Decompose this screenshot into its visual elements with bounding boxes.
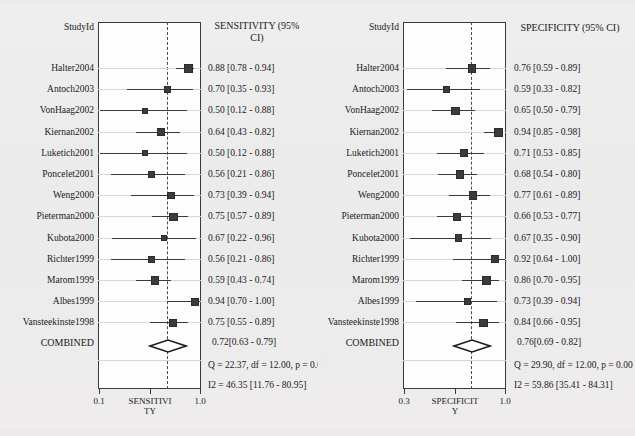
confidence-interval-text: 0.86 [0.70 - 0.95] xyxy=(514,270,581,290)
confidence-interval-text: 0.94 [0.70 - 1.00] xyxy=(208,291,275,311)
point-estimate-marker xyxy=(443,86,451,94)
panel-gutter-mask xyxy=(318,352,328,370)
specificity-q-statistic: Q = 29.90, df = 12.00, p = 0.00 xyxy=(514,360,633,370)
point-estimate-marker xyxy=(164,86,171,93)
point-estimate-marker xyxy=(453,213,462,222)
study-row: Weng20000.77 [0.61 - 0.89] xyxy=(318,185,635,205)
sensitivity-axis-tick-min xyxy=(99,389,100,394)
confidence-interval-text: 0.67 [0.35 - 0.90] xyxy=(514,228,581,248)
study-label: VonHaag2002 xyxy=(318,100,399,120)
combined-row-gridline xyxy=(403,360,506,361)
point-estimate-marker xyxy=(456,170,465,179)
point-estimate-marker xyxy=(142,150,148,156)
confidence-interval-text: 0.67 [0.22 - 0.96] xyxy=(208,228,275,248)
confidence-interval-text: 0.56 [0.21 - 0.86] xyxy=(208,164,275,184)
study-label: Weng2000 xyxy=(318,185,399,205)
point-estimate-marker xyxy=(468,64,476,72)
study-row: Marom19990.86 [0.70 - 0.95] xyxy=(318,270,635,290)
study-label: Vansteekinste1998 xyxy=(0,312,94,332)
sensitivity-axis-tick-mid xyxy=(150,389,151,394)
combined-row-gridline xyxy=(98,360,201,361)
sensitivity-axis-title: SENSITIVI TY xyxy=(115,396,185,416)
sensitivity-axis-label-max: 1.0 xyxy=(187,396,213,406)
sensitivity-axis-title-line1: SENSITIVI xyxy=(115,396,185,406)
study-label: Weng2000 xyxy=(0,185,94,205)
point-estimate-marker xyxy=(169,213,177,221)
study-row: Kiernan20020.94 [0.85 - 0.98] xyxy=(318,122,635,142)
confidence-interval-line xyxy=(416,301,497,302)
point-estimate-marker xyxy=(184,64,193,73)
confidence-interval-text: 0.56 [0.21 - 0.86] xyxy=(208,249,275,269)
confidence-interval-text: 0.70 [0.35 - 0.93] xyxy=(208,79,275,99)
sensitivity-column-header-line2: CI) xyxy=(203,32,311,44)
study-row: Weng20000.73 [0.39 - 0.94] xyxy=(0,185,317,205)
study-row: Pieterman20000.75 [0.57 - 0.89] xyxy=(0,206,317,226)
point-estimate-marker xyxy=(494,128,503,137)
study-label: Halter2004 xyxy=(318,58,399,78)
specificity-axis-tick-max xyxy=(505,389,506,394)
study-row: Vansteekinste19980.75 [0.55 - 0.89] xyxy=(0,312,317,332)
confidence-interval-text: 0.50 [0.12 - 0.88] xyxy=(208,100,275,120)
study-label: Albes1999 xyxy=(0,291,94,311)
specificity-axis-title: SPECIFICIT Y xyxy=(420,396,490,416)
sensitivity-column-header: SENSITIVITY (95% CI) xyxy=(203,20,311,44)
point-estimate-marker xyxy=(167,192,174,199)
confidence-interval-line xyxy=(112,238,197,239)
study-label: Antoch2003 xyxy=(0,79,94,99)
sensitivity-combined-label: COMBINED xyxy=(0,337,94,348)
study-row: Marom19990.59 [0.43 - 0.74] xyxy=(0,270,317,290)
study-label: Richter1999 xyxy=(0,249,94,269)
study-label: Antoch2003 xyxy=(318,79,399,99)
specificity-combined-label: COMBINED xyxy=(318,337,399,348)
confidence-interval-text: 0.73 [0.39 - 0.94] xyxy=(514,291,581,311)
study-row: Kubota20000.67 [0.22 - 0.96] xyxy=(0,228,317,248)
study-row: VonHaag20020.65 [0.50 - 0.79] xyxy=(318,100,635,120)
study-label: Poncelet2001 xyxy=(0,164,94,184)
study-row: Poncelet20010.68 [0.54 - 0.80] xyxy=(318,164,635,184)
confidence-interval-line xyxy=(127,89,193,90)
specificity-column-header: SPECIFICITY (95% CI) xyxy=(506,22,634,34)
sensitivity-axis-title-line2: TY xyxy=(115,406,185,416)
diamond-icon xyxy=(452,338,492,354)
specificity-axis-label-max: 1.0 xyxy=(492,396,518,406)
study-row: Luketich20010.71 [0.53 - 0.85] xyxy=(318,143,635,163)
forest-plot-figure: StudyId SENSITIVITY (95% CI) Halter20040… xyxy=(0,0,635,436)
study-row: Luketich20010.50 [0.12 - 0.88] xyxy=(0,143,317,163)
point-estimate-marker xyxy=(491,255,499,263)
sensitivity-combined-ci: 0.72[0.63 - 0.79] xyxy=(212,337,276,347)
point-estimate-marker xyxy=(148,256,155,263)
study-row: Kubota20000.67 [0.35 - 0.90] xyxy=(318,228,635,248)
sensitivity-i2-statistic: I2 = 46.35 [11.76 - 80.95] xyxy=(208,380,306,390)
confidence-interval-text: 0.94 [0.85 - 0.98] xyxy=(514,122,581,142)
study-label: Marom1999 xyxy=(318,270,399,290)
specificity-axis-label-min: 0.3 xyxy=(391,396,417,406)
confidence-interval-text: 0.76 [0.59 - 0.89] xyxy=(514,58,581,78)
study-label: Luketich2001 xyxy=(318,143,399,163)
study-label: Kiernan2002 xyxy=(0,122,94,142)
study-label: Marom1999 xyxy=(0,270,94,290)
point-estimate-marker xyxy=(464,298,471,305)
study-row: Halter20040.88 [0.78 - 0.94] xyxy=(0,58,317,78)
study-label: Halter2004 xyxy=(0,58,94,78)
confidence-interval-text: 0.50 [0.12 - 0.88] xyxy=(208,143,275,163)
study-label: Pieterman2000 xyxy=(318,206,399,226)
study-row: Richter19990.92 [0.64 - 1.00] xyxy=(318,249,635,269)
confidence-interval-text: 0.64 [0.43 - 0.82] xyxy=(208,122,275,142)
study-row: Albes19990.73 [0.39 - 0.94] xyxy=(318,291,635,311)
point-estimate-marker xyxy=(169,319,177,327)
sensitivity-axis-label-min: 0.1 xyxy=(86,396,112,406)
study-label: Pieterman2000 xyxy=(0,206,94,226)
confidence-interval-text: 0.71 [0.53 - 0.85] xyxy=(514,143,581,163)
point-estimate-marker xyxy=(151,276,159,284)
study-label: Albes1999 xyxy=(318,291,399,311)
confidence-interval-line xyxy=(131,195,194,196)
sensitivity-panel: StudyId SENSITIVITY (95% CI) Halter20040… xyxy=(0,0,317,436)
confidence-interval-text: 0.84 [0.66 - 0.95] xyxy=(514,312,581,332)
point-estimate-marker xyxy=(460,149,468,157)
point-estimate-marker xyxy=(451,107,459,115)
confidence-interval-text: 0.59 [0.33 - 0.82] xyxy=(514,79,581,99)
study-label: Vansteekinste1998 xyxy=(318,312,399,332)
sensitivity-q-statistic: Q = 22.37, df = 12.00, p = 0.0 xyxy=(208,360,322,370)
study-row: VonHaag20020.50 [0.12 - 0.88] xyxy=(0,100,317,120)
study-row: Kiernan20020.64 [0.43 - 0.82] xyxy=(0,122,317,142)
